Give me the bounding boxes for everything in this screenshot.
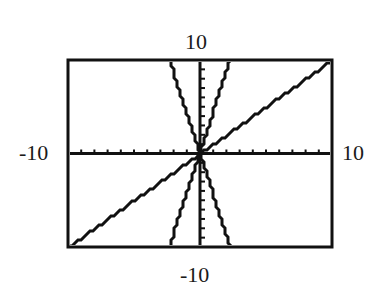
y-tick [201, 227, 205, 229]
y-tick [201, 190, 205, 192]
x-tick [305, 150, 307, 153]
x-tick [225, 150, 227, 153]
x-tick [212, 150, 214, 153]
x-tick [186, 150, 188, 153]
x-tick [265, 150, 267, 153]
y-tick [201, 218, 205, 220]
x-tick [107, 150, 109, 153]
y-tick [201, 87, 205, 89]
x-tick [278, 150, 280, 153]
y-tick [201, 199, 205, 201]
xmin-label: -10 [19, 142, 48, 164]
y-tick [201, 68, 205, 70]
xmax-label: 10 [342, 142, 364, 164]
ymax-label: 10 [185, 31, 207, 53]
y-tick [201, 115, 205, 117]
x-tick [80, 150, 82, 153]
x-tick [239, 150, 241, 153]
y-tick [201, 124, 205, 126]
x-tick [173, 150, 175, 153]
y-tick [201, 209, 205, 211]
x-tick [133, 150, 135, 153]
y-tick [201, 181, 205, 183]
plot-area [67, 59, 333, 248]
y-tick [201, 237, 205, 239]
y-tick [201, 106, 205, 108]
ymin-label: -10 [180, 264, 209, 286]
x-tick [159, 150, 161, 153]
x-tick [146, 150, 148, 153]
x-tick [93, 150, 95, 153]
x-tick [291, 150, 293, 153]
y-tick [201, 96, 205, 98]
y-tick [201, 78, 205, 80]
x-tick [318, 150, 320, 153]
x-tick [252, 150, 254, 153]
y-tick [201, 171, 205, 173]
x-tick [120, 150, 122, 153]
